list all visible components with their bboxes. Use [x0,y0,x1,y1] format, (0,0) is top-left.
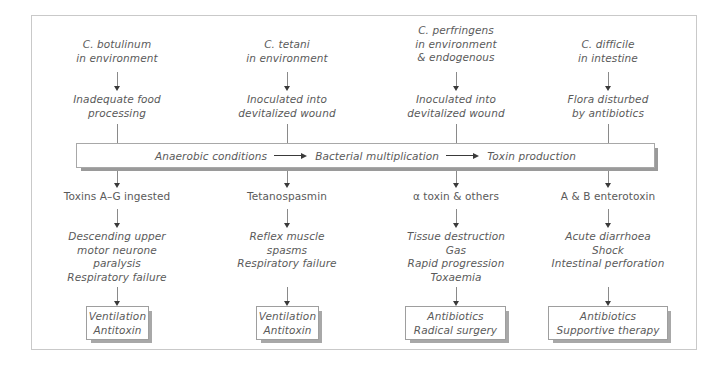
diagram-canvas: C. botulinum in environment Inadequate f… [0,0,721,369]
effects-label-c-difficile: Acute diarrhoea Shock Intestinal perfora… [533,230,683,271]
arrow-effects-to-treatment-col1 [113,287,122,306]
route-label-c-tetani: Inoculated into devitalized wound [217,93,357,120]
diagram-outer-frame [31,15,697,350]
organism-label-c-perfringens: C. perfringens in environment & endogeno… [391,24,521,65]
central-step-anaerobic-conditions: Anaerobic conditions [155,150,267,162]
arrow-bar-to-toxin-col1 [113,168,122,188]
connector-route-to-bar-col4 [608,124,609,143]
connector-route-to-bar-col3 [456,124,457,143]
arrow-bar-to-toxin-col3 [452,168,461,188]
effects-label-c-tetani: Reflex muscle spasms Respiratory failure [212,230,362,271]
arrow-toxin-to-effects-col2 [283,209,292,228]
organism-label-c-difficile: C. difficile in intestine [543,38,673,65]
connector-route-to-bar-col2 [287,124,288,143]
arrow-toxin-to-effects-col3 [452,209,461,228]
toxin-label-c-tetani: Tetanospasmin [212,190,362,204]
toxin-label-c-perfringens: α toxin & others [381,190,531,204]
organism-label-c-botulinum: C. botulinum in environment [52,38,182,65]
arrow-bar-to-toxin-col2 [283,168,292,188]
arrow-effects-to-treatment-col2 [283,287,292,306]
connector-route-to-bar-col1 [117,124,118,143]
toxin-label-c-botulinum: Toxins A–G ingested [42,190,192,204]
arrow-organism-to-route-col4 [604,72,613,91]
arrow-bar-to-toxin-col4 [604,168,613,188]
arrow-effects-to-treatment-col4 [604,287,613,306]
effects-label-c-botulinum: Descending upper motor neurone paralysis… [42,230,192,284]
central-step-bacterial-multiplication: Bacterial multiplication [315,150,439,162]
treatment-box-c-perfringens: Antibiotics Radical surgery [405,306,506,340]
toxin-label-c-difficile: A & B enterotoxin [533,190,683,204]
route-label-c-difficile: Flora disturbed by antibiotics [538,93,678,120]
arrow-toxin-to-effects-col1 [113,209,122,228]
arrow-organism-to-route-col1 [113,72,122,91]
right-arrow-icon-1 [274,151,308,160]
arrow-effects-to-treatment-col3 [452,287,461,306]
route-label-c-botulinum: Inadequate food processing [52,93,182,120]
central-step-toxin-production: Toxin production [487,150,576,162]
central-process-bar: Anaerobic conditions Bacterial multiplic… [76,143,655,168]
organism-label-c-tetani: C. tetani in environment [222,38,352,65]
route-label-c-perfringens: Inoculated into devitalized wound [386,93,526,120]
arrow-organism-to-route-col3 [452,72,461,91]
treatment-box-c-botulinum: Ventilation Antitoxin [86,306,149,340]
effects-label-c-perfringens: Tissue destruction Gas Rapid progression… [381,230,531,284]
treatment-box-c-tetani: Ventilation Antitoxin [256,306,319,340]
arrow-organism-to-route-col2 [283,72,292,91]
treatment-box-c-difficile: Antibiotics Supportive therapy [548,306,668,340]
arrow-toxin-to-effects-col4 [604,209,613,228]
right-arrow-icon-2 [446,151,480,160]
